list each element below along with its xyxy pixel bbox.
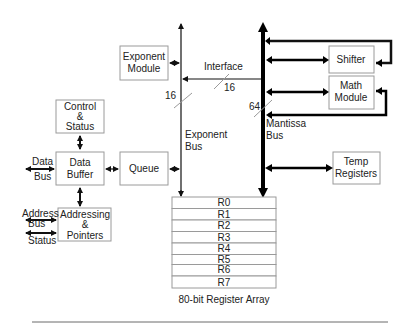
register-array-caption: 80-bit Register Array	[178, 294, 269, 305]
register-r1: R1	[218, 209, 231, 220]
interface-link: Interface 16	[183, 61, 261, 93]
svg-text:Math: Math	[340, 80, 362, 91]
fpu-block-diagram: 16 Exponent Bus 64 Mantissa Bus Interfac…	[0, 0, 409, 326]
svg-text:Status: Status	[66, 121, 94, 132]
data-buffer-module: Data Buffer	[56, 152, 104, 185]
register-r0: R0	[218, 197, 231, 208]
svg-text:Bus: Bus	[34, 171, 51, 182]
svg-text:Data: Data	[69, 157, 91, 168]
register-r4: R4	[218, 243, 231, 254]
exponent-bus: 16 Exponent Bus	[165, 24, 227, 196]
svg-text:Shifter: Shifter	[337, 54, 367, 65]
svg-text:Bus: Bus	[28, 218, 45, 229]
temp-registers: Temp Registers	[333, 152, 380, 184]
exponent-bus-label-1: Exponent	[185, 129, 227, 140]
svg-text:Exponent: Exponent	[123, 51, 165, 62]
exponent-bus-label-2: Bus	[185, 141, 202, 152]
mantissa-bus-label-2: Bus	[266, 130, 283, 141]
register-r7: R7	[218, 277, 231, 288]
svg-text:Status: Status	[28, 235, 56, 246]
address-bus-external: Address Bus	[22, 208, 59, 229]
shifter-module: Shifter	[329, 46, 374, 73]
svg-text:Pointers: Pointers	[67, 230, 104, 241]
exponent-bus-width: 16	[165, 90, 177, 101]
queue-module: Queue	[120, 152, 168, 185]
svg-text:Module: Module	[335, 92, 368, 103]
status-external: Status	[26, 233, 56, 246]
svg-text:&: &	[82, 219, 89, 230]
svg-text:Module: Module	[128, 63, 161, 74]
svg-text:Temp: Temp	[344, 156, 369, 167]
math-module: Math Module	[329, 76, 374, 109]
mantissa-bus-label-1: Mantissa	[266, 118, 306, 129]
mantissa-bus: 64 Mantissa Bus	[249, 22, 306, 198]
register-array: R0 R1 R2 R3 R4 R5 R6 R7 80-bit Register …	[172, 197, 276, 305]
addressing-pointers-module: Addressing & Pointers	[58, 208, 111, 241]
temp-registers-link	[265, 164, 333, 172]
interface-width: 16	[224, 82, 236, 93]
control-status-module: Control & Status	[56, 100, 104, 133]
register-r3: R3	[218, 232, 231, 243]
svg-text:Data: Data	[32, 156, 54, 167]
exponent-module: Exponent Module	[120, 46, 168, 80]
mantissa-bus-width: 64	[249, 101, 261, 112]
svg-text:Buffer: Buffer	[67, 169, 94, 180]
data-bus-external: Data Bus	[26, 156, 54, 182]
register-r2: R2	[218, 220, 231, 231]
svg-text:Registers: Registers	[335, 168, 377, 179]
svg-text:Queue: Queue	[129, 163, 159, 174]
interface-label: Interface	[204, 61, 243, 72]
register-r6: R6	[218, 264, 231, 275]
